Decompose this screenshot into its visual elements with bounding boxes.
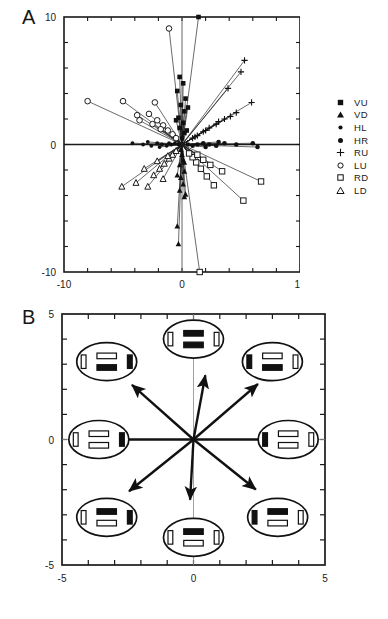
eye-icon-right xyxy=(258,421,318,459)
eye-bar-left xyxy=(252,511,257,525)
eye-bar-top xyxy=(263,353,283,359)
eye-bar-left xyxy=(73,433,78,447)
eye-bar-bottom xyxy=(97,365,117,371)
eye-bar-bottom xyxy=(278,443,298,449)
y-tick-label: 5 xyxy=(48,309,54,320)
data-point-RD xyxy=(211,183,216,188)
panel-b: B 50-5-505 xyxy=(0,300,388,619)
data-point-HL xyxy=(131,141,135,145)
legend-label: LU xyxy=(354,160,367,171)
data-point-HL xyxy=(141,143,145,147)
data-point-HL xyxy=(149,144,153,148)
data-point-VU xyxy=(175,89,180,94)
x-tick-label: 0 xyxy=(179,279,185,290)
data-point-RD xyxy=(204,174,209,179)
data-point-HL xyxy=(177,143,181,147)
eye-bar-left xyxy=(263,433,268,447)
data-point-VD xyxy=(183,191,189,196)
data-point-VU xyxy=(177,75,182,80)
legend-item: LU xyxy=(333,159,369,172)
vector-arrow-up-left xyxy=(132,385,194,440)
data-point-RD xyxy=(193,160,198,165)
vector-line xyxy=(182,88,228,144)
y-tick-label: -5 xyxy=(45,560,54,571)
eye-bar-left xyxy=(81,511,86,525)
x-tick-label: 10 xyxy=(294,279,300,290)
data-point-LU xyxy=(165,128,171,134)
data-point-HR xyxy=(251,141,256,146)
filled-square-icon xyxy=(333,98,347,107)
data-point-VU xyxy=(181,121,186,126)
eye-bar-top xyxy=(278,431,298,437)
data-point-RD xyxy=(208,162,213,167)
eye-bar-bottom xyxy=(184,540,204,546)
eye-bar-right xyxy=(298,511,303,525)
data-point-RD xyxy=(219,169,224,174)
data-point-LU xyxy=(120,98,126,104)
data-point-HL xyxy=(167,141,171,145)
eye-bar-top xyxy=(89,431,109,437)
vector-arrow-down xyxy=(190,440,193,500)
x-tick-label: -10 xyxy=(57,279,72,290)
data-point-HL xyxy=(158,145,162,149)
data-point-LU xyxy=(146,111,152,117)
eye-bar-bottom xyxy=(184,342,204,348)
y-tick-label: 0 xyxy=(50,140,56,151)
panel-a-legend: VU VD HL HR RU xyxy=(333,96,369,197)
data-point-VU xyxy=(177,126,182,131)
eye-bar-bottom xyxy=(268,520,288,526)
eye-bar-top xyxy=(97,509,117,515)
eye-bar-right xyxy=(120,433,125,447)
open-triangle-icon xyxy=(333,186,347,195)
data-point-RD xyxy=(201,157,206,162)
eye-bar-right xyxy=(214,332,219,346)
data-point-VD xyxy=(176,241,182,246)
x-tick-label: 5 xyxy=(322,573,328,584)
legend-label: RU xyxy=(354,147,369,158)
data-point-RD xyxy=(241,198,246,203)
data-point-LU xyxy=(85,98,91,104)
eye-icon-up xyxy=(164,320,224,358)
y-tick-label: -10 xyxy=(42,267,57,278)
data-point-LU xyxy=(154,117,160,123)
eye-icon-up-left xyxy=(77,343,137,381)
eye-icon-down xyxy=(164,518,224,556)
data-point-RD xyxy=(186,151,191,156)
legend-item: VU xyxy=(333,96,369,109)
data-point-RU xyxy=(249,99,255,105)
eye-icon-up-right xyxy=(242,343,302,381)
eye-bar-right xyxy=(293,355,298,369)
panel-b-plot: 50-5-505 xyxy=(0,300,388,610)
eye-bar-left xyxy=(168,332,173,346)
eye-bar-right xyxy=(127,511,132,525)
y-tick-label: 0 xyxy=(48,435,54,446)
data-point-RU xyxy=(241,57,247,63)
eye-bar-left xyxy=(168,531,173,545)
data-point-RD xyxy=(258,179,263,184)
data-point-HR xyxy=(203,145,208,150)
data-point-HR xyxy=(222,141,227,146)
legend-label: HL xyxy=(354,122,367,133)
data-point-HR xyxy=(255,145,260,150)
data-point-HR xyxy=(201,141,206,146)
data-point-VU xyxy=(196,15,201,20)
eye-bar-bottom xyxy=(263,365,283,371)
eye-icon-left xyxy=(69,421,129,459)
legend-label: VU xyxy=(354,97,368,108)
data-point-VU xyxy=(186,105,191,110)
data-point-VU xyxy=(174,118,179,123)
eye-bar-right xyxy=(309,433,314,447)
data-point-VU xyxy=(184,128,189,133)
data-point-LU xyxy=(150,121,156,127)
data-point-HR xyxy=(234,142,239,147)
legend-item: HL xyxy=(333,121,369,134)
data-point-HR xyxy=(190,143,195,148)
data-point-VD xyxy=(174,172,180,177)
filled-circle-icon xyxy=(333,136,347,145)
data-point-LU xyxy=(158,126,164,132)
x-tick-label: -5 xyxy=(58,573,67,584)
legend-label: LD xyxy=(354,185,367,196)
data-point-VU xyxy=(180,136,185,141)
x-tick-label: 0 xyxy=(191,573,197,584)
eye-bar-top xyxy=(268,509,288,515)
